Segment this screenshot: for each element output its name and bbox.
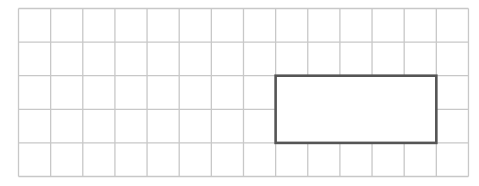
grid-diagram [0, 0, 479, 186]
highlighted-rectangle [276, 76, 437, 143]
